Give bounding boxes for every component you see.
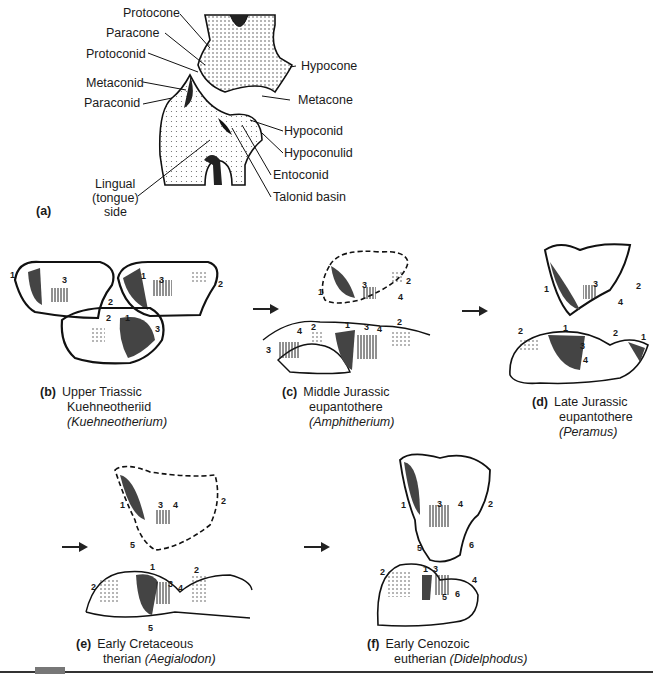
caption-b-line1: Upper Triassic: [62, 385, 142, 399]
cusp-num-2: 2: [397, 318, 402, 327]
label-hypoconid: Hypoconid: [284, 124, 343, 138]
caption-b: (b)Upper Triassic Kuehneotheriid (Kuehne…: [40, 385, 167, 430]
cusp-num-3: 3: [155, 325, 160, 334]
cusp-num-1: 1: [141, 272, 146, 281]
cusp-num-1: 1: [10, 271, 15, 280]
cusp-num-2: 2: [488, 500, 493, 509]
caption-f: (f)Early Cenozoic eutherian (Didelphodus…: [367, 637, 527, 667]
label-side: side: [104, 205, 127, 219]
caption-d-tag: (d): [532, 395, 548, 409]
arrow-d-to-e: [62, 546, 86, 548]
cusp-num-3: 3: [437, 500, 442, 509]
bottom-rule-marker: [35, 667, 65, 674]
arrow-e-to-f: [304, 546, 328, 548]
cusp-num-4: 4: [398, 293, 403, 302]
caption-e-line2: therian: [103, 652, 141, 666]
caption-d-genus: (Peramus): [559, 425, 617, 439]
panel-a-tag: (a): [36, 204, 51, 218]
cusp-num-3: 3: [364, 323, 369, 332]
cusp-num-2: 2: [518, 327, 523, 336]
caption-c: (c)Middle Jurassic eupantothere (Amphith…: [282, 385, 394, 430]
cusp-num-4: 4: [458, 500, 463, 509]
caption-f-tag: (f): [367, 637, 380, 651]
caption-c-line1: Middle Jurassic: [303, 385, 389, 399]
caption-b-line2: Kuehneotheriid: [40, 400, 167, 415]
cusp-num-4: 4: [178, 584, 183, 593]
cusp-num-1: 1: [401, 501, 406, 510]
panel-e-drawing: [86, 466, 252, 618]
cusp-num-5: 5: [148, 624, 153, 633]
cusp-num-6: 6: [469, 541, 474, 550]
caption-c-line2: eupantothere: [282, 400, 394, 415]
cusp-num-4: 4: [173, 501, 178, 510]
caption-e: (e)Early Cretaceous therian (Aegialodon): [76, 637, 216, 667]
label-hypoconulid: Hypoconulid: [284, 146, 353, 160]
cusp-num-3: 3: [168, 580, 173, 589]
arrow-b-to-c: [253, 308, 277, 310]
cusp-num-1: 1: [423, 565, 428, 574]
cusp-num-3: 3: [580, 342, 585, 351]
caption-c-genus: (Amphitherium): [309, 415, 394, 429]
cusp-num-3: 3: [433, 565, 438, 574]
cusp-num-4: 4: [472, 576, 477, 585]
cusp-num-2: 2: [380, 568, 385, 577]
cusp-num-4: 4: [583, 356, 588, 365]
caption-e-line1: Early Cretaceous: [97, 637, 193, 651]
cusp-num-2: 2: [406, 277, 411, 286]
cusp-num-3: 3: [362, 281, 367, 290]
bottom-rule: [0, 671, 653, 673]
label-paraconid: Paraconid: [84, 96, 140, 110]
cusp-num-2: 2: [108, 298, 113, 307]
label-entoconid: Entoconid: [273, 168, 329, 182]
cusp-num-3: 3: [266, 346, 271, 355]
caption-d-line2: eupantothere: [532, 410, 633, 425]
cusp-num-5: 5: [442, 593, 447, 602]
cusp-num-1: 1: [120, 501, 125, 510]
cusp-num-2: 2: [218, 280, 223, 289]
cusp-num-1: 1: [125, 314, 130, 323]
label-metaconid: Metaconid: [86, 76, 144, 90]
cusp-num-2: 2: [91, 583, 96, 592]
arrow-c-to-d: [462, 310, 486, 312]
cusp-num-2: 2: [106, 314, 111, 323]
label-paracone: Paracone: [106, 26, 160, 40]
label-lingual: Lingual: [95, 177, 135, 191]
caption-d: (d)Late Jurassic eupantothere (Peramus): [532, 395, 633, 440]
cusp-num-4: 4: [377, 325, 382, 334]
caption-e-tag: (e): [76, 637, 91, 651]
cusp-num-3: 3: [593, 280, 598, 289]
label-tongue: (tongue): [92, 191, 139, 205]
cusp-num-1: 1: [318, 288, 323, 297]
panel-d-drawing: [510, 244, 648, 383]
cusp-num-3: 3: [62, 276, 67, 285]
cusp-num-5: 5: [130, 541, 135, 550]
cusp-num-2: 2: [636, 282, 641, 291]
caption-f-genus: (Didelphodus): [450, 652, 528, 666]
cusp-num-3: 3: [158, 501, 163, 510]
cusp-num-1: 1: [544, 285, 549, 294]
label-protocone: Protocone: [123, 6, 180, 20]
cusp-num-2: 2: [194, 566, 199, 575]
caption-b-genus: (Kuehneotherium): [67, 415, 167, 429]
label-metacone: Metacone: [298, 93, 353, 107]
cusp-num-4: 4: [297, 327, 302, 336]
cusp-num-1: 1: [150, 563, 155, 572]
cusp-num-3: 3: [159, 276, 164, 285]
label-talonid-basin: Talonid basin: [273, 190, 346, 204]
caption-c-tag: (c): [282, 385, 297, 399]
cusp-num-6: 6: [455, 590, 460, 599]
label-hypocone: Hypocone: [301, 59, 357, 73]
cusp-num-2: 2: [221, 497, 226, 506]
cusp-num-1: 1: [641, 333, 646, 342]
cusp-num-5: 5: [417, 544, 422, 553]
caption-d-line1: Late Jurassic: [554, 395, 628, 409]
cusp-num-4: 4: [618, 298, 623, 307]
caption-f-line1: Early Cenozoic: [386, 637, 470, 651]
panel-b-drawing: [15, 262, 217, 364]
panel-c-drawing: [263, 251, 430, 373]
caption-b-tag: (b): [40, 385, 56, 399]
cusp-num-2: 2: [311, 323, 316, 332]
caption-e-genus: (Aegialodon): [145, 652, 216, 666]
caption-f-line2: eutherian: [394, 652, 446, 666]
cusp-num-1: 1: [563, 324, 568, 333]
